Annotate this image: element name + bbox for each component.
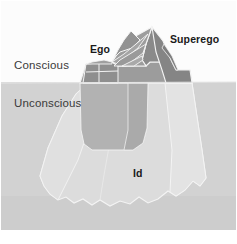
iceberg-left-shelf-block [83, 62, 118, 83]
freudian-iceberg-figure: Conscious Unconscious Ego Superego Id [0, 0, 237, 244]
iceberg-illustration [0, 0, 237, 244]
